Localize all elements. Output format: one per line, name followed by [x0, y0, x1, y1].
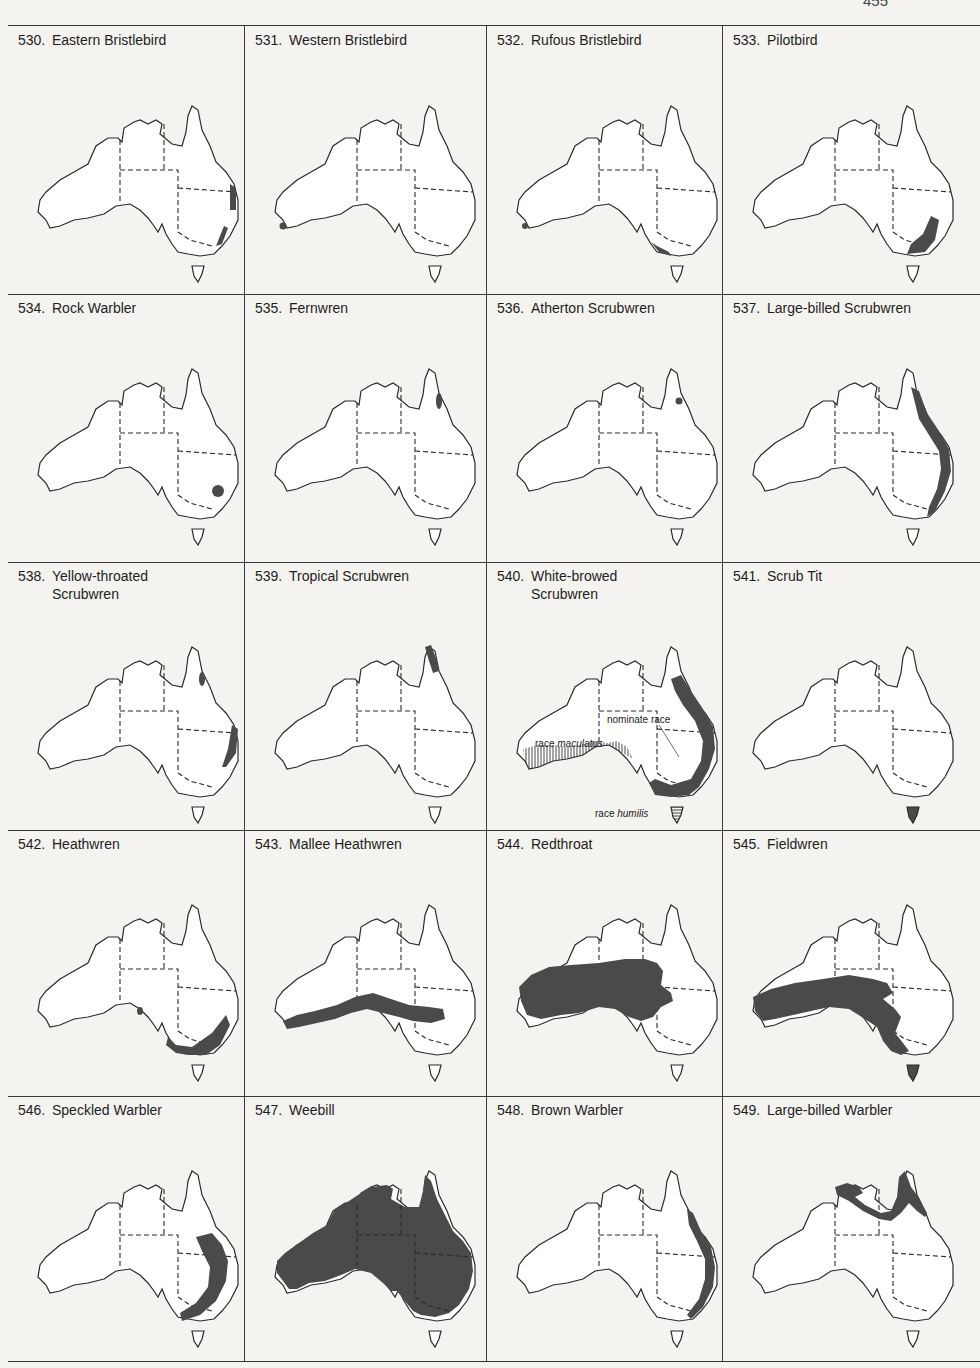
- page-number: 455: [863, 0, 888, 9]
- species-cell-549: 549.Large-billed Warbler: [722, 1096, 980, 1361]
- species-number: 530.: [18, 31, 52, 49]
- species-cell-532: 532.Rufous Bristlebird: [486, 26, 723, 294]
- range-map: [16, 617, 244, 837]
- species-name: Large-billed Warbler: [767, 1101, 893, 1119]
- species-map-grid: 530.Eastern Bristlebird 531.Western Bris…: [8, 25, 980, 1362]
- range-map: [731, 76, 959, 296]
- species-cell-531: 531.Western Bristlebird: [244, 26, 487, 294]
- species-cell-530: 530.Eastern Bristlebird: [8, 26, 244, 294]
- species-number: 541.: [733, 567, 767, 585]
- species-cell-546: 546.Speckled Warbler: [8, 1096, 244, 1361]
- species-name: Mallee Heathwren: [289, 835, 402, 853]
- species-name: Scrub Tit: [767, 567, 822, 585]
- race-humilis-label: race humilis: [595, 808, 648, 819]
- range-map: [731, 339, 959, 559]
- species-name: Fernwren: [289, 299, 348, 317]
- species-name: Yellow-throated Scrubwren: [52, 567, 148, 603]
- range-map: [16, 339, 244, 559]
- range-map: [16, 1141, 244, 1361]
- race-maculatus-label: race maculatus: [535, 738, 603, 749]
- species-number: 534.: [18, 299, 52, 317]
- species-name: Atherton Scrubwren: [531, 299, 655, 317]
- species-cell-547: 547.Weebill: [244, 1096, 487, 1361]
- species-number: 548.: [497, 1101, 531, 1119]
- species-name: Western Bristlebird: [289, 31, 407, 49]
- species-name: Pilotbird: [767, 31, 818, 49]
- species-cell-536: 536.Atherton Scrubwren: [486, 294, 723, 562]
- range-map: [253, 617, 481, 837]
- range-map: [253, 1141, 481, 1361]
- species-name: Brown Warbler: [531, 1101, 623, 1119]
- species-cell-538: 538.Yellow-throated Scrubwren: [8, 562, 244, 830]
- range-map: [495, 875, 723, 1095]
- range-map: [16, 76, 244, 296]
- range-map: [731, 1141, 959, 1361]
- range-map: [495, 339, 723, 559]
- nominate-race-label: nominate race: [607, 714, 671, 725]
- species-number: 532.: [497, 31, 531, 49]
- species-number: 538.: [18, 567, 52, 603]
- species-name: Heathwren: [52, 835, 120, 853]
- species-number: 535.: [255, 299, 289, 317]
- species-cell-539: 539.Tropical Scrubwren: [244, 562, 487, 830]
- species-name: Rock Warbler: [52, 299, 136, 317]
- species-cell-543: 543.Mallee Heathwren: [244, 830, 487, 1096]
- species-name: Tropical Scrubwren: [289, 567, 409, 585]
- range-map: [495, 76, 723, 296]
- species-name: Large-billed Scrubwren: [767, 299, 911, 317]
- species-name: Rufous Bristlebird: [531, 31, 642, 49]
- species-number: 531.: [255, 31, 289, 49]
- species-number: 533.: [733, 31, 767, 49]
- map-row: 546.Speckled Warbler 547.Weebill 548.Bro…: [8, 1096, 980, 1361]
- map-row: 542.Heathwren 543.Mallee Heathwren 544.R…: [8, 830, 980, 1097]
- species-name: Eastern Bristlebird: [52, 31, 166, 49]
- species-name: Fieldwren: [767, 835, 828, 853]
- range-map: [731, 875, 959, 1095]
- species-cell-542: 542.Heathwren: [8, 830, 244, 1096]
- species-cell-534: 534.Rock Warbler: [8, 294, 244, 562]
- species-number: 544.: [497, 835, 531, 853]
- species-name: White-browed Scrubwren: [531, 567, 617, 603]
- range-map: [16, 875, 244, 1095]
- species-cell-545: 545.Fieldwren: [722, 830, 980, 1096]
- species-number: 536.: [497, 299, 531, 317]
- range-map: [253, 339, 481, 559]
- species-cell-544: 544.Redthroat: [486, 830, 723, 1096]
- map-row: 534.Rock Warbler 535.Fernwren 536.Athert…: [8, 294, 980, 563]
- range-map: nominate race race maculatus race humili…: [495, 617, 723, 837]
- range-map: [731, 617, 959, 837]
- map-row: 530.Eastern Bristlebird 531.Western Bris…: [8, 26, 980, 295]
- range-map: [253, 875, 481, 1095]
- species-number: 539.: [255, 567, 289, 585]
- species-name: Redthroat: [531, 835, 592, 853]
- species-cell-535: 535.Fernwren: [244, 294, 487, 562]
- range-map: [253, 76, 481, 296]
- species-name: Weebill: [289, 1101, 335, 1119]
- species-cell-537: 537.Large-billed Scrubwren: [722, 294, 980, 562]
- species-number: 537.: [733, 299, 767, 317]
- map-row: 538.Yellow-throated Scrubwren 539.Tropic…: [8, 562, 980, 831]
- species-cell-548: 548.Brown Warbler: [486, 1096, 723, 1361]
- species-number: 542.: [18, 835, 52, 853]
- species-name: Speckled Warbler: [52, 1101, 162, 1119]
- species-cell-533: 533.Pilotbird: [722, 26, 980, 294]
- species-number: 547.: [255, 1101, 289, 1119]
- species-number: 540.: [497, 567, 531, 603]
- range-map: [495, 1141, 723, 1361]
- species-number: 549.: [733, 1101, 767, 1119]
- species-number: 543.: [255, 835, 289, 853]
- species-cell-540: 540.White-browed Scrubwren nominate race…: [486, 562, 723, 830]
- species-cell-541: 541.Scrub Tit: [722, 562, 980, 830]
- species-number: 545.: [733, 835, 767, 853]
- species-number: 546.: [18, 1101, 52, 1119]
